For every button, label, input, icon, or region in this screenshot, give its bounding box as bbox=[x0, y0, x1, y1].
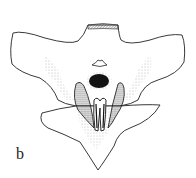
figure-panel: b bbox=[0, 0, 196, 178]
panel-label: b bbox=[16, 145, 24, 163]
bone-illustration bbox=[0, 0, 196, 178]
